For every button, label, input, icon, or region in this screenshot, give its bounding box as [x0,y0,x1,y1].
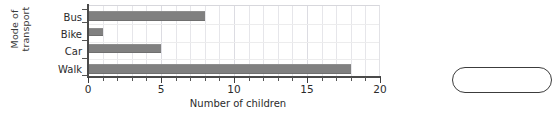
x-axis-tick-label-15: 15 [292,83,322,95]
plot-area [88,5,380,76]
x-tick-4 [146,77,147,81]
x-tick-19 [365,77,366,81]
x-tick-2 [117,77,118,81]
y-axis-line [87,4,89,77]
answer-input-box[interactable] [452,67,552,93]
x-tick-14 [292,77,293,81]
x-axis-tick-label-10: 10 [219,83,249,95]
y-tick-walk [82,58,87,59]
y-axis-label-bike: Bike [34,30,82,40]
x-tick-7 [190,77,191,81]
y-tick-base [82,75,87,76]
x-tick-9 [219,77,220,81]
x-tick-17 [336,77,337,81]
x-axis-tick-label-5: 5 [146,83,176,95]
x-tick-12 [263,77,264,81]
x-tick-13 [278,77,279,81]
y-axis-label-bus: Bus [34,13,82,23]
bar-car [88,44,161,53]
y-tick-car [82,40,87,41]
y-tick-bike [82,22,87,23]
bar-bus [88,11,205,21]
y-axis-label-walk: Walk [34,65,82,75]
x-axis-title: Number of children [148,98,328,109]
x-tick-6 [176,77,177,81]
row-divider-2 [88,42,379,43]
y-axis-label-car: Car [34,47,82,57]
bar-walk [88,64,351,74]
x-tick-18 [351,77,352,81]
x-tick-16 [322,77,323,81]
x-axis-tick-label-0: 0 [73,83,103,95]
y-tick-bus [82,9,87,10]
bar-bike [88,28,103,36]
x-tick-1 [103,77,104,81]
row-divider-1 [88,24,379,25]
row-divider-3 [88,59,379,60]
x-axis-tick-label-20: 20 [365,83,395,95]
x-tick-3 [132,77,133,81]
x-tick-8 [205,77,206,81]
y-axis-category-labels: Bus Bike Car Walk [34,6,84,78]
x-tick-11 [249,77,250,81]
